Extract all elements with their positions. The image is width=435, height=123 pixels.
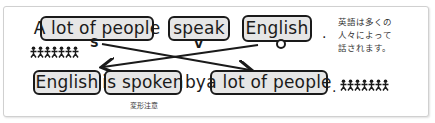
translation-note: 英語は多くの 人々によって 話されます。 xyxy=(338,16,392,55)
people-icons-bottom xyxy=(340,79,389,93)
verb-label: V xyxy=(194,38,203,50)
passive-verb-text: is spoken xyxy=(102,74,183,91)
passive-subject-box: English xyxy=(33,70,101,95)
subject-label: S xyxy=(90,37,99,49)
active-object-box: English xyxy=(242,15,312,42)
people-icons-top xyxy=(30,46,79,60)
verb-change-note: 変形注意 xyxy=(130,100,158,110)
active-object-text: English xyxy=(246,20,309,37)
object-label-circle xyxy=(276,39,286,49)
active-verb-text: speak xyxy=(173,20,224,37)
active-period: . xyxy=(322,26,326,40)
passive-period: . xyxy=(332,80,336,94)
passive-agent-box: a lot of people xyxy=(210,70,328,95)
passive-subject-text: English xyxy=(36,74,99,91)
active-subject-text: A lot of people xyxy=(34,20,161,37)
passive-by-text: by xyxy=(185,74,206,91)
passive-agent-text: a lot of people xyxy=(206,74,331,91)
passive-verb-box: is spoken xyxy=(104,70,182,95)
